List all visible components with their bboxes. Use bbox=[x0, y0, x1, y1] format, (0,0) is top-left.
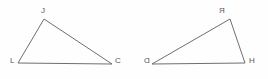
vertex-label-left-bottom-right: C bbox=[115, 57, 121, 65]
left-triangle-outline bbox=[18, 19, 112, 64]
vertex-label-right-bottom-left: D bbox=[144, 57, 150, 65]
vertex-label-right-apex: R bbox=[219, 7, 225, 15]
geometry-diagram: J L C R D H bbox=[0, 0, 268, 79]
vertex-label-right-bottom-right: H bbox=[249, 57, 255, 65]
right-triangle-outline bbox=[152, 19, 245, 64]
vertex-label-left-apex: J bbox=[41, 7, 45, 15]
vertex-label-left-bottom-left: L bbox=[10, 57, 14, 65]
